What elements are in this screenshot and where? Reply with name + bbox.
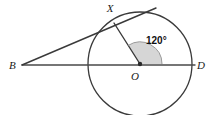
geometry-figure: B X O D 120° <box>0 0 213 115</box>
label-point-o: O <box>131 70 139 82</box>
circle-diagram-svg: B X O D 120° <box>0 0 213 115</box>
center-point-dot <box>138 62 142 66</box>
label-point-b: B <box>9 59 16 71</box>
label-angle-xod: 120° <box>146 35 167 46</box>
label-point-x: X <box>106 2 115 14</box>
label-point-d: D <box>196 59 205 71</box>
